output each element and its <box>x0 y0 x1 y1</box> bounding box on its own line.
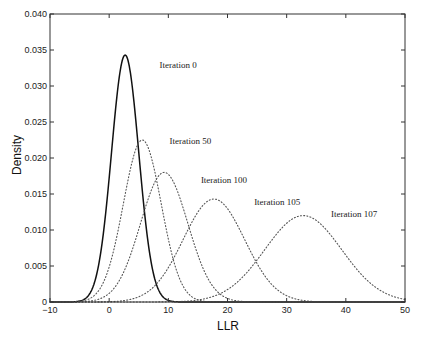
y-tick-label: 0.020 <box>24 153 47 163</box>
annotation-iteration-50: Iteration 50 <box>170 136 212 146</box>
y-tick-label: 0.030 <box>24 81 47 91</box>
x-axis-label: LLR <box>217 319 239 333</box>
annotation-iteration-105: Iteration 105 <box>254 197 301 207</box>
y-tick-label: 0 <box>42 297 47 307</box>
y-tick-label: 0.040 <box>24 9 47 19</box>
axes-frame <box>50 14 405 302</box>
x-tick-label: 50 <box>400 305 410 315</box>
y-tick-label: 0.005 <box>24 261 47 271</box>
y-tick-label: 0.025 <box>24 117 47 127</box>
x-tick-label: 0 <box>107 305 112 315</box>
x-tick-label: 10 <box>163 305 173 315</box>
annotation-iteration-100: Iteration 100 <box>201 175 248 185</box>
y-tick-label: 0.015 <box>24 189 47 199</box>
x-tick-label: 20 <box>222 305 232 315</box>
density-chart: −1001020304050 00.0050.0100.0150.0200.02… <box>0 0 421 337</box>
y-axis-ticks: 00.0050.0100.0150.0200.0250.0300.0350.04… <box>24 9 405 307</box>
y-axis-label: Density <box>10 135 24 175</box>
curve-annotations: Iteration 0Iteration 50Iteration 100Iter… <box>159 60 377 219</box>
y-tick-label: 0.010 <box>24 225 47 235</box>
annotation-iteration-0: Iteration 0 <box>159 60 197 70</box>
y-tick-label: 0.035 <box>24 45 47 55</box>
x-tick-label: 40 <box>341 305 351 315</box>
annotation-iteration-107: Iteration 107 <box>331 209 378 219</box>
curve-iteration-50 <box>50 140 405 302</box>
x-tick-label: 30 <box>282 305 292 315</box>
